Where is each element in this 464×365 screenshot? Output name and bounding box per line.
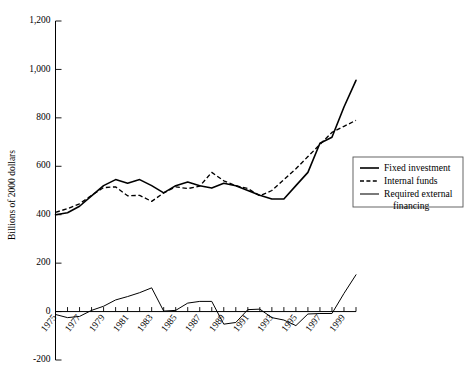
x-tick-label: 1993 — [255, 312, 275, 333]
x-axis: 1975197719791981198319851987198919911993… — [39, 307, 356, 334]
legend-item-label: Fixed investment — [384, 162, 451, 173]
y-tick-label: 200 — [36, 257, 51, 267]
x-tick-label: 1995 — [279, 312, 299, 333]
x-tick-label: 1977 — [63, 312, 83, 333]
legend-item-label: Internal funds — [384, 175, 438, 186]
legend-item-label-cont: financing — [393, 200, 429, 211]
x-tick-label: 1999 — [327, 312, 347, 333]
line-chart-canvas: -20002004006008001,0001,200 197519771979… — [0, 0, 464, 365]
legend-item-label: Required external — [384, 188, 453, 199]
y-axis-title: Billions of 2000 dollars — [7, 150, 17, 240]
y-tick-label: 1,200 — [29, 15, 51, 25]
x-tick-label: 1987 — [183, 312, 203, 333]
y-tick-label: 800 — [36, 112, 51, 122]
y-tick-label: 1,000 — [29, 64, 51, 74]
data-series-group — [56, 80, 357, 325]
y-tick-label: 400 — [36, 209, 51, 219]
x-tick-label: 1985 — [159, 312, 179, 333]
y-tick-label: -200 — [33, 354, 51, 364]
chart-legend: Fixed investmentInternal fundsRequired e… — [353, 157, 463, 211]
x-tick-label: 1983 — [135, 312, 155, 333]
x-tick-label: 1979 — [87, 312, 107, 333]
x-tick-label: 1989 — [207, 312, 227, 333]
chart-figure: -20002004006008001,0001,200 197519771979… — [0, 0, 464, 365]
y-tick-label: 600 — [36, 160, 51, 170]
series-line — [56, 80, 357, 214]
x-tick-label: 1981 — [111, 312, 131, 333]
